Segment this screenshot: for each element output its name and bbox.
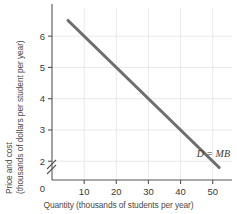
y-tick-label: 5 bbox=[40, 62, 45, 73]
plot-area: 2345601020304050 D = MB bbox=[0, 0, 237, 214]
tick-labels: 2345601020304050 bbox=[40, 31, 218, 197]
y-tick-label: 4 bbox=[40, 93, 45, 104]
x-tick-label: 40 bbox=[175, 186, 186, 197]
x-tick-label: 10 bbox=[79, 186, 90, 197]
data-series bbox=[68, 21, 219, 168]
x-tick-label: 50 bbox=[207, 186, 218, 197]
x-axis-label: Quantity (thousands of students per year… bbox=[0, 200, 237, 210]
demand-curve-figure: Price and cost (thousands of dollars per… bbox=[0, 0, 237, 214]
x-tick-label: 30 bbox=[143, 186, 154, 197]
y-tick-label: 2 bbox=[40, 156, 45, 167]
x-tick-label: 20 bbox=[111, 186, 122, 197]
y-tick-label: 3 bbox=[40, 124, 45, 135]
demand-curve-line bbox=[68, 21, 219, 168]
y-tick-label: 6 bbox=[40, 31, 45, 42]
curve-label-d-mb: D = MB bbox=[196, 148, 230, 159]
tick-marks bbox=[47, 36, 213, 184]
origin-label: 0 bbox=[40, 183, 45, 194]
annotations: D = MB bbox=[196, 148, 230, 159]
